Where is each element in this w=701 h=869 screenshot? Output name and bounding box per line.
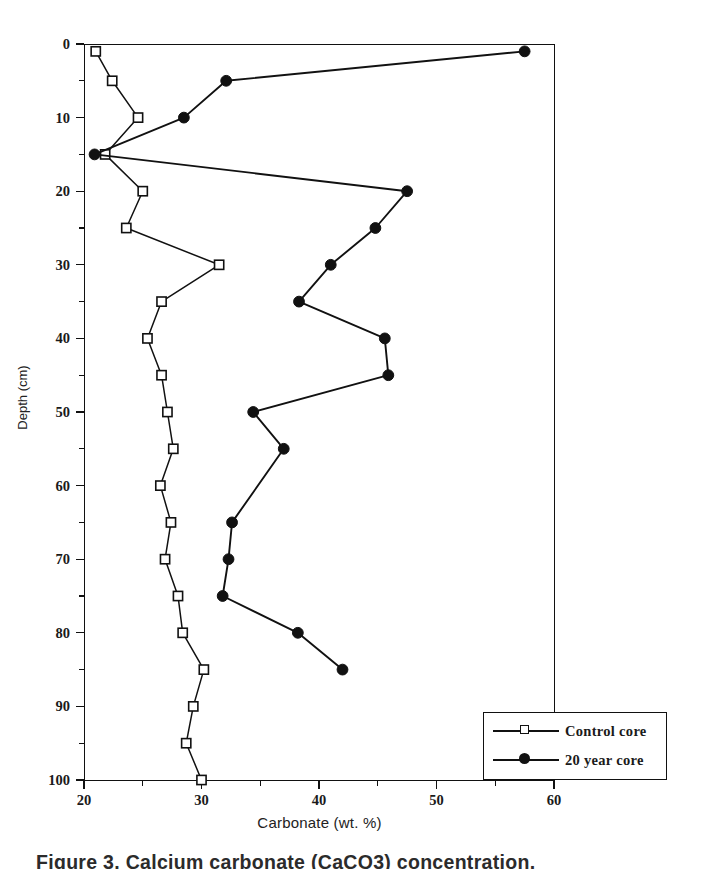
y-minor-tick-65 (79, 522, 84, 523)
y-tick-label-70: 70 (24, 552, 70, 567)
x-minor-tick-45 (377, 781, 378, 786)
data-point (217, 591, 228, 602)
data-point (178, 628, 187, 637)
x-minor-tick-35 (260, 781, 261, 786)
data-point (182, 739, 191, 748)
data-point (138, 187, 147, 196)
x-tick-label-20: 20 (59, 793, 109, 808)
data-point (157, 297, 166, 306)
figure-container: 0102030405060708090100 2030405060 Depth … (0, 0, 701, 869)
data-point (157, 371, 166, 380)
x-minor-tick-25 (142, 781, 143, 786)
data-point (122, 223, 131, 232)
x-minor-tick-55 (495, 781, 496, 786)
x-axis-title: Carbonate (wt. %) (84, 814, 555, 831)
data-point (337, 664, 348, 675)
figure-caption: Figure 3. Calcium carbonate (CaCO3) conc… (36, 849, 676, 869)
data-point (166, 518, 175, 527)
y-tick-70 (76, 559, 84, 560)
x-tick-30 (201, 781, 202, 789)
y-tick-90 (76, 706, 84, 707)
data-point (173, 591, 182, 600)
y-minor-tick-75 (79, 595, 84, 596)
x-tick-50 (436, 781, 437, 789)
x-tick-label-30: 30 (177, 793, 227, 808)
data-point (108, 76, 117, 85)
data-point (402, 186, 413, 197)
y-minor-tick-95 (79, 743, 84, 744)
x-tick-label-60: 60 (529, 793, 579, 808)
y-axis-line (84, 44, 85, 780)
x-tick-20 (83, 781, 84, 789)
data-point (189, 702, 198, 711)
data-point (292, 627, 303, 638)
y-tick-label-80: 80 (24, 626, 70, 641)
y-tick-60 (76, 485, 84, 486)
y-tick-label-30: 30 (24, 258, 70, 273)
y-tick-80 (76, 632, 84, 633)
legend-entry-20-year-core: 20 year core (484, 746, 666, 774)
x-tick-label-40: 40 (294, 793, 344, 808)
y-minor-tick-85 (79, 669, 84, 670)
y-tick-20 (76, 191, 84, 192)
data-point (383, 370, 394, 381)
data-point (227, 517, 238, 528)
data-point (89, 149, 100, 160)
y-minor-tick-45 (79, 375, 84, 376)
y-tick-30 (76, 264, 84, 265)
data-point (163, 407, 172, 416)
y-minor-tick-35 (79, 301, 84, 302)
legend-label-control-core: Control core (565, 723, 647, 740)
y-tick-label-50: 50 (24, 405, 70, 420)
series-control-core (91, 47, 224, 785)
y-tick-label-40: 40 (24, 331, 70, 346)
y-tick-0 (76, 43, 84, 44)
legend-sample-filled-circle-icon (493, 750, 559, 770)
data-point (278, 443, 289, 454)
y-tick-label-90: 90 (24, 699, 70, 714)
y-tick-10 (76, 117, 84, 118)
legend-label-20-year-core: 20 year core (565, 752, 644, 769)
data-point (370, 223, 381, 234)
legend-entry-control-core: Control core (484, 717, 666, 745)
y-tick-label-100: 100 (24, 773, 70, 788)
y-tick-50 (76, 411, 84, 412)
y-axis-title: Depth (cm) (15, 338, 30, 458)
series-line (95, 51, 525, 669)
y-tick-label-60: 60 (24, 479, 70, 494)
y-tick-label-10: 10 (24, 111, 70, 126)
data-point (248, 407, 259, 418)
y-tick-label-0: 0 (24, 37, 70, 52)
x-tick-40 (318, 781, 319, 789)
data-point (101, 150, 110, 159)
data-point (156, 481, 165, 490)
legend-box: Control core 20 year core (483, 712, 667, 780)
data-point (133, 113, 142, 122)
data-point (143, 334, 152, 343)
y-minor-tick-15 (79, 154, 84, 155)
data-point (379, 333, 390, 344)
y-minor-tick-55 (79, 448, 84, 449)
y-tick-label-20: 20 (24, 184, 70, 199)
legend-sample-open-square-icon (493, 721, 559, 741)
data-point (169, 444, 178, 453)
data-point (199, 665, 208, 674)
data-point (325, 259, 336, 270)
data-point (294, 296, 305, 307)
data-point (519, 46, 530, 57)
top-axis-line (84, 44, 555, 45)
y-minor-tick-25 (79, 227, 84, 228)
data-point (223, 554, 234, 565)
data-point (91, 47, 100, 56)
series-line (96, 51, 219, 780)
data-point (221, 75, 232, 86)
data-point (160, 555, 169, 564)
y-minor-tick-5 (79, 80, 84, 81)
data-point (178, 112, 189, 123)
x-tick-60 (553, 781, 554, 789)
y-tick-40 (76, 338, 84, 339)
x-tick-label-50: 50 (412, 793, 462, 808)
right-axis-line (554, 44, 555, 780)
data-point (215, 260, 224, 269)
series-20-year-core (89, 46, 530, 675)
